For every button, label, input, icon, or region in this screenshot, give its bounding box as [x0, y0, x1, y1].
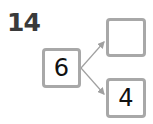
part-box-filled: 4: [106, 78, 146, 118]
arrow-to-bottom-part: [81, 68, 104, 94]
part-box-empty[interactable]: [106, 18, 146, 57]
whole-box: 6: [42, 48, 81, 88]
arrow-to-top-part: [81, 42, 104, 68]
